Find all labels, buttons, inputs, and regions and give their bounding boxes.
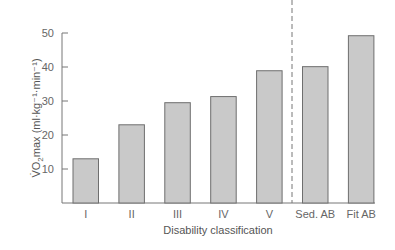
x-tick-label: II [129, 208, 135, 220]
bar [73, 159, 99, 203]
bar-chart: 1020304050 IIIIIIIVVSed. ABFit ABDisabil… [0, 0, 395, 250]
x-tick-label: Sed. AB [295, 208, 335, 220]
bar [348, 36, 374, 203]
x-tick-label: Fit AB [346, 208, 375, 220]
x-tick-label: V [266, 208, 274, 220]
y-tick-label: 10 [42, 163, 54, 175]
bar [119, 125, 144, 203]
x-tick-label: III [173, 208, 182, 220]
x-tick-label: IV [218, 208, 229, 220]
bar [257, 71, 283, 203]
bar [303, 67, 329, 203]
y-tick-label: 40 [42, 61, 54, 73]
y-tick-label: 50 [42, 27, 54, 39]
bars [73, 36, 374, 203]
bar [211, 97, 237, 203]
y-tick-label: 30 [42, 95, 54, 107]
y-axis-title: V̇O2max (ml·kg⁻¹·min⁻¹) [30, 58, 45, 177]
bar [165, 103, 191, 203]
x-axis-title: Disability classification [163, 224, 272, 236]
x-tick-label: I [84, 208, 87, 220]
y-tick-label: 20 [42, 129, 54, 141]
